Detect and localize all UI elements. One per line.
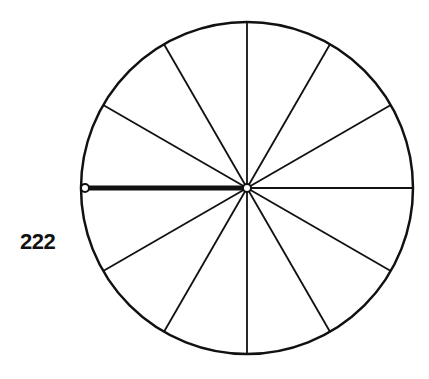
- center-point: [243, 184, 251, 192]
- figure-number-label: 222: [20, 229, 55, 255]
- edge-point: [81, 184, 89, 192]
- figure: 222: [0, 0, 429, 379]
- divided-circle-diagram: [0, 0, 429, 379]
